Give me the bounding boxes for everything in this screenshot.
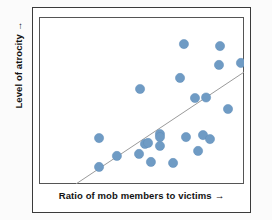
data-point — [135, 84, 144, 93]
data-point — [112, 151, 121, 160]
data-point — [94, 133, 103, 142]
data-point — [179, 39, 188, 48]
data-point — [146, 157, 155, 166]
data-point — [205, 134, 214, 143]
y-axis-label-text: Level of atrocity — [13, 34, 24, 109]
data-point — [193, 146, 202, 155]
plot-frame — [40, 18, 244, 184]
data-point — [236, 58, 244, 67]
x-axis-label: Ratio of mob members to victims→ — [39, 186, 244, 206]
data-point — [143, 138, 152, 147]
plot-area — [39, 17, 244, 184]
y-axis-arrow-icon: → — [9, 21, 29, 31]
data-point — [223, 104, 232, 113]
data-point — [155, 141, 164, 150]
y-axis-label: Level of atrocity→ — [9, 0, 29, 140]
data-point — [94, 162, 103, 171]
data-point — [155, 132, 164, 141]
scatter-plot-canvas — [39, 17, 244, 184]
x-axis-arrow-icon: → — [215, 186, 225, 206]
data-point — [168, 158, 177, 167]
data-point — [215, 41, 224, 50]
data-point — [190, 93, 199, 102]
data-point — [181, 132, 190, 141]
data-point — [134, 149, 143, 158]
scatter-plot-figure: Level of atrocity→ Ratio of mob members … — [0, 0, 272, 220]
data-point — [175, 73, 184, 82]
data-point — [201, 93, 210, 102]
data-point — [214, 60, 223, 69]
x-axis-label-text: Ratio of mob members to victims — [59, 190, 212, 201]
